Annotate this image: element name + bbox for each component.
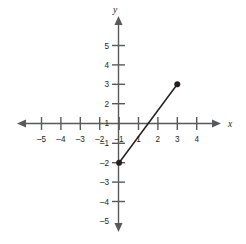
y-tick-label: –1 <box>100 139 110 148</box>
x-tick-label: –3 <box>76 135 86 144</box>
y-tick-label: –5 <box>100 217 110 226</box>
y-tick-label: –4 <box>100 198 110 207</box>
y-tick-label: 4 <box>104 61 109 70</box>
plot-background <box>0 0 246 244</box>
x-tick-label: 3 <box>175 135 180 144</box>
y-tick-label: –2 <box>100 159 110 168</box>
endpoint-dot-lower <box>116 160 122 166</box>
y-tick-label: –3 <box>100 178 110 187</box>
y-tick-label: 5 <box>104 42 109 51</box>
plot-canvas: x y –5 –4 –3 –2 –1 1 2 <box>0 0 246 244</box>
x-tick-label: –4 <box>56 135 66 144</box>
y-axis-label: y <box>112 5 118 15</box>
x-axis-label: x <box>227 119 233 129</box>
y-tick-label: 1 <box>104 119 109 128</box>
y-tick-label: 3 <box>104 80 109 89</box>
endpoint-dot-upper <box>175 82 181 88</box>
x-tick-label: 2 <box>156 135 161 144</box>
coordinate-plane-figure: x y –5 –4 –3 –2 –1 1 2 <box>0 0 246 244</box>
x-tick-label: 4 <box>194 135 199 144</box>
y-tick-label: 2 <box>104 100 109 109</box>
x-tick-label: –5 <box>37 135 47 144</box>
